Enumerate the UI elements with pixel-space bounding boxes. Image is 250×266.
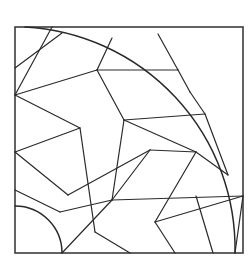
figure-canvas (0, 0, 250, 266)
stained-glass-fan-diagram (0, 0, 250, 266)
